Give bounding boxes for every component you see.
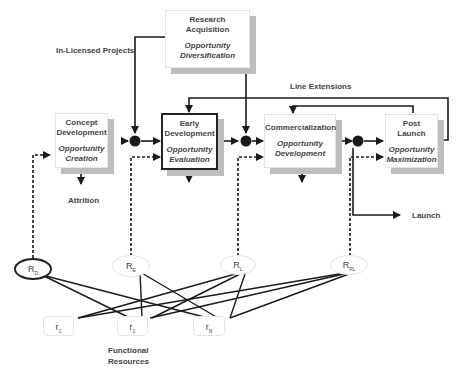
stage-title: Research xyxy=(166,15,249,25)
node-sub: PL xyxy=(349,266,355,272)
label-line: Functional xyxy=(108,346,148,355)
junction-1 xyxy=(130,136,141,147)
stage-title: Commercialization xyxy=(265,123,335,133)
stage-commercialization[interactable]: Commercialization Opportunity Developmen… xyxy=(264,114,336,168)
stage-subtitle: Maximization xyxy=(386,155,437,165)
stage-early-development[interactable]: Early Development Opportunity Evaluation xyxy=(161,113,218,170)
stage-subtitle: Creation xyxy=(56,154,107,164)
node-sub: L xyxy=(240,266,243,272)
stage-subtitle: Opportunity xyxy=(166,41,249,51)
node-sub: E xyxy=(133,267,136,273)
stage-title: Development xyxy=(56,128,107,138)
resource-node-rd[interactable]: RD xyxy=(14,258,52,280)
label-in-licensed-projects: In-Licensed Projects xyxy=(56,46,134,55)
post-to-commercial-connector xyxy=(293,106,413,113)
label-line: Resources xyxy=(108,357,149,366)
stage-subtitle: Opportunity xyxy=(386,145,437,155)
stage-subtitle: Development xyxy=(265,149,335,159)
label-launch: Launch xyxy=(412,211,440,220)
junction-2 xyxy=(241,136,252,147)
label-line-extensions: Line Extensions xyxy=(290,82,351,91)
resource-sub: 2 xyxy=(133,328,136,334)
resource-node-rl[interactable]: RL xyxy=(220,255,256,275)
stage-title: Acquisition xyxy=(166,25,249,35)
label-functional-resources: Functional Resources xyxy=(108,345,149,367)
junction-3 xyxy=(353,136,364,147)
node-sub: D xyxy=(34,270,38,276)
resource-sub: 1 xyxy=(59,328,62,334)
resource-node-rpl[interactable]: RPL xyxy=(330,255,368,275)
stage-subtitle: Opportunity xyxy=(265,139,335,149)
label-attrition: Attrition xyxy=(68,196,99,205)
resource-node-re[interactable]: RE xyxy=(112,255,150,277)
functional-resource-r1[interactable]: r1 xyxy=(43,316,74,336)
resource-sub: N xyxy=(209,328,213,334)
stage-title: Post xyxy=(386,119,437,129)
stage-subtitle: Opportunity xyxy=(56,144,107,154)
stage-subtitle: Opportunity xyxy=(163,145,216,155)
stage-title: Development xyxy=(163,129,216,139)
stage-title: Launch xyxy=(386,129,437,139)
stage-concept-development[interactable]: Concept Development Opportunity Creation xyxy=(55,113,108,168)
stage-research-acquisition[interactable]: Research Acquisition Opportunity Diversi… xyxy=(165,10,250,68)
stage-title: Concept xyxy=(56,118,107,128)
functional-resource-rn[interactable]: rN xyxy=(193,316,225,336)
stage-title: Early xyxy=(163,119,216,129)
functional-resource-r2[interactable]: r2 xyxy=(117,316,148,336)
stage-subtitle: Diversification xyxy=(166,51,249,61)
stage-subtitle: Evaluation xyxy=(163,155,216,165)
stage-post-launch[interactable]: Post Launch Opportunity Maximization xyxy=(385,114,438,168)
